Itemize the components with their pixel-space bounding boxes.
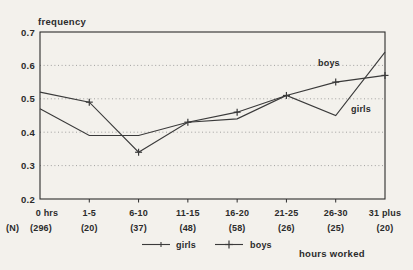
y-tick-label: 0.7 [21, 27, 35, 38]
legend-label-boys: boys [250, 240, 272, 250]
inline-series-label-boys: boys [318, 58, 340, 68]
x-category-label: 26-30 [324, 208, 348, 218]
x-category-label: 21-25 [274, 208, 298, 218]
gridlines-group [40, 65, 385, 165]
x-category-labels-group: 0 hrs1-56-1011-1516-2021-2526-3031 plus [36, 208, 401, 218]
n-value-label: (48) [179, 223, 196, 233]
x-axis-title: hours worked [299, 248, 365, 259]
x-category-label: 1-5 [82, 208, 96, 218]
n-value-label: (25) [327, 223, 344, 233]
n-value-label: (37) [130, 223, 147, 233]
y-axis-title: frequency [38, 16, 87, 27]
legend-label-girls: girls [176, 240, 196, 250]
boys-line [40, 75, 385, 152]
n-value-label: (296) [30, 223, 52, 233]
x-category-label: 11-15 [176, 208, 200, 218]
n-values-row-group: (296)(20)(37)(48)(58)(26)(25)(20) [30, 223, 393, 233]
n-row-prefix: (N) [6, 223, 19, 233]
y-tick-labels-group: 0.20.30.40.50.60.7 [21, 27, 36, 205]
n-value-label: (58) [229, 223, 246, 233]
x-category-label: 6-10 [129, 208, 148, 218]
scanned-chart-page: 0.20.30.40.50.60.7 0 hrs1-56-1011-1516-2… [0, 0, 413, 270]
n-value-label: (26) [278, 223, 295, 233]
frequency-line-chart: 0.20.30.40.50.60.7 0 hrs1-56-1011-1516-2… [0, 0, 413, 270]
n-value-label: (20) [81, 223, 98, 233]
inline-series-label-girls: girls [351, 104, 371, 114]
y-tick-label: 0.4 [21, 127, 36, 138]
y-tick-label: 0.5 [21, 93, 36, 104]
y-tick-label: 0.3 [21, 160, 35, 171]
y-tick-label: 0.2 [21, 194, 35, 205]
x-category-label: 16-20 [225, 208, 249, 218]
x-category-label: 31 plus [369, 208, 401, 218]
n-value-label: (20) [377, 223, 394, 233]
x-category-label: 0 hrs [36, 208, 59, 218]
y-tick-label: 0.6 [21, 60, 35, 71]
